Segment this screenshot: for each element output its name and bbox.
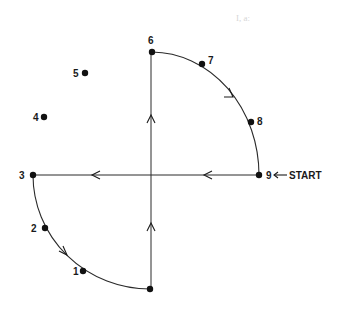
label-4: 4 (33, 112, 39, 123)
start-label: START (289, 170, 322, 181)
lower-left-arc (33, 175, 150, 289)
point-7 (199, 61, 205, 67)
label-2: 2 (31, 223, 37, 234)
point-9 (256, 172, 262, 178)
point-6 (149, 49, 155, 55)
point-5 (82, 70, 88, 76)
label-3: 3 (19, 170, 25, 181)
point-8 (248, 119, 254, 125)
label-5: 5 (73, 68, 79, 79)
point-3 (30, 172, 36, 178)
points (30, 49, 262, 292)
label-7: 7 (208, 55, 214, 66)
path-diagram: I, a: START 1 2 3 4 (0, 0, 343, 319)
bleed-through-text: I, a: (236, 13, 250, 23)
point-4 (41, 114, 47, 120)
arrows (59, 88, 233, 255)
label-9: 9 (266, 170, 272, 181)
upper-right-arc (152, 52, 259, 175)
point-bottom (147, 286, 153, 292)
label-8: 8 (257, 116, 263, 127)
point-1 (80, 268, 86, 274)
label-1: 1 (73, 266, 79, 277)
point-2 (42, 225, 48, 231)
label-6: 6 (148, 35, 154, 46)
